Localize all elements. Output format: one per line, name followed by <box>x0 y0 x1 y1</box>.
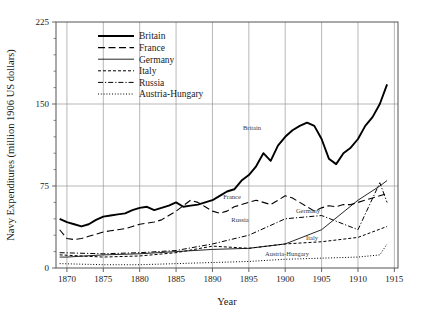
inline-label-italy: Italy <box>306 234 319 241</box>
y-tick-label: 0 <box>45 263 50 273</box>
inline-label-britain: Britain <box>243 124 262 131</box>
legend-label-austria-hungary: Austria-Hungary <box>139 89 204 99</box>
navy-expenditures-figure: BritainFranceRussiaGermanyItalyAustria-H… <box>0 0 431 326</box>
x-tick-label: 1885 <box>167 274 186 284</box>
x-tick-label: 1870 <box>58 274 77 284</box>
y-axis-title: Navy Expenditures (million 1906 US dolla… <box>5 49 17 241</box>
x-axis-title: Year <box>217 296 237 307</box>
y-tick-label: 150 <box>36 99 50 109</box>
x-tick-label: 1880 <box>131 274 150 284</box>
x-tick-label: 1910 <box>349 274 368 284</box>
x-tick-label: 1900 <box>276 274 295 284</box>
x-tick-label: 1895 <box>240 274 259 284</box>
x-tick-label: 1905 <box>313 274 332 284</box>
inline-label-france: France <box>223 193 241 200</box>
x-tick-label: 1890 <box>203 274 222 284</box>
x-tick-label: 1915 <box>385 274 404 284</box>
navy-expenditures-chart: BritainFranceRussiaGermanyItalyAustria-H… <box>0 0 431 326</box>
legend-label-france: France <box>139 43 165 53</box>
inline-label-austria-hungary: Austria-Hungary <box>265 250 310 257</box>
x-tick-label: 1875 <box>94 274 113 284</box>
y-tick-label: 75 <box>40 181 50 191</box>
legend-label-russia: Russia <box>139 78 165 88</box>
legend-label-britain: Britain <box>139 31 166 41</box>
legend-label-germany: Germany <box>139 55 175 65</box>
legend-label-italy: Italy <box>139 66 157 76</box>
inline-label-germany: Germany <box>296 207 321 214</box>
inline-label-russia: Russia <box>231 216 248 223</box>
y-tick-label: 225 <box>36 17 50 27</box>
